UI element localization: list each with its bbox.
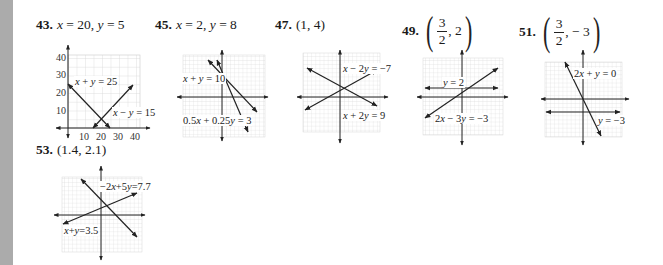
line-label: x + 2y = 9 [342, 110, 386, 121]
line-label: x + y = 25 [74, 76, 118, 87]
line-label: 0.5x + 0.25y = 3 [182, 115, 252, 126]
line-label: 2x − 3y = −3 [434, 113, 489, 124]
x-tick-label: 40 [130, 132, 140, 142]
graph-45 [177, 50, 268, 141]
y-tick-label: 30 [56, 70, 66, 80]
line-label: x + y = 10 [182, 73, 226, 84]
y-tick-label: 10 [56, 106, 66, 116]
line-label: x+y=3.5 [63, 225, 99, 236]
y-tick-label: 20 [56, 88, 66, 98]
line-label: x − y = 15 [112, 107, 156, 118]
y-tick-label: 40 [56, 53, 66, 63]
graph-49 [417, 50, 508, 145]
line-label: y = −3 [597, 115, 626, 126]
answer-key-page: 43. x = 20, y = 5 45. x = 2, y = 8 47. (… [0, 0, 663, 265]
x-tick-label: 30 [113, 132, 123, 142]
line-label: 2x + y = 0 [573, 68, 617, 79]
x-tick-label: 10 [79, 132, 89, 142]
line-label: −2x+5y=7.7 [99, 181, 152, 192]
x-tick-label: 20 [96, 132, 106, 142]
graph-43 [56, 45, 150, 138]
line-label: y = 2 [442, 77, 465, 88]
graph-51 [541, 50, 629, 145]
line-label: x − 2y = −7 [342, 63, 392, 74]
